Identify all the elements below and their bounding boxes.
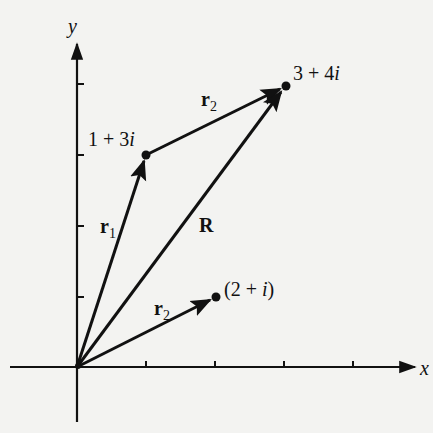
label-R: R [199,214,214,236]
x-axis-label: x [419,357,429,379]
origin-point [75,363,81,369]
label-3-plus-4i: 3 + 4i [293,62,340,84]
complex-plane-diagram: x y 1 + 3i 3 + 4i (2 + i) r1 r2 R r2 [0,0,433,433]
x-axis: x [10,357,429,379]
label-1-plus-3i: 1 + 3i [88,128,135,150]
point-2-plus-i [212,293,221,302]
point-1-plus-3i [142,151,151,160]
point-3-plus-4i [282,82,291,91]
label-r1: r1 [100,215,116,241]
y-axis-label: y [66,15,77,38]
label-r2-top: r2 [201,88,217,114]
label-2-plus-i: (2 + i) [224,278,274,301]
vector-r1 [77,161,144,367]
label-r2-bottom: r2 [154,297,170,323]
